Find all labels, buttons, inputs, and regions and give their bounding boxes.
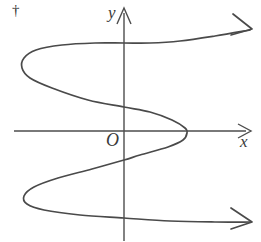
origin-label: O xyxy=(106,131,119,149)
x-axis xyxy=(14,124,251,138)
curve-group xyxy=(22,14,252,229)
figure-container: † y x O xyxy=(0,0,261,242)
graph-canvas xyxy=(0,0,261,242)
y-axis-label: y xyxy=(108,4,116,21)
curve-upper-arrowhead xyxy=(231,14,252,35)
curve-lower-arrowhead xyxy=(231,208,252,229)
curve-line xyxy=(22,30,250,222)
x-axis-label: x xyxy=(240,133,248,150)
footnote-dagger-marker: † xyxy=(12,3,20,18)
